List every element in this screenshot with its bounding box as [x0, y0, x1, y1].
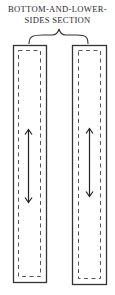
right-grain-arrow-icon — [86, 129, 93, 197]
left-seam-line — [19, 51, 41, 277]
left-grain-arrow-icon — [25, 130, 32, 203]
pattern-diagram — [0, 0, 115, 295]
grouping-brace — [29, 29, 88, 44]
right-pattern-piece — [73, 46, 107, 285]
left-pattern-piece — [14, 46, 47, 283]
